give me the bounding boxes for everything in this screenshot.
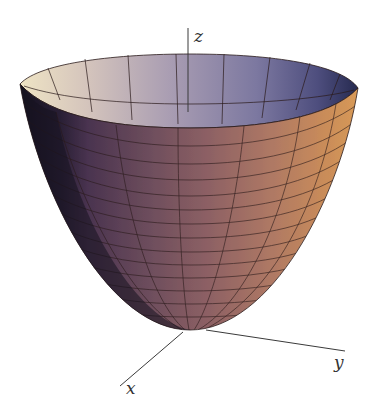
x-axis-label: x	[126, 378, 136, 398]
paraboloid-figure: z	[0, 0, 378, 406]
y-axis	[206, 330, 345, 351]
y-axis-label: y	[333, 352, 344, 372]
z-axis-label: z	[193, 26, 204, 46]
